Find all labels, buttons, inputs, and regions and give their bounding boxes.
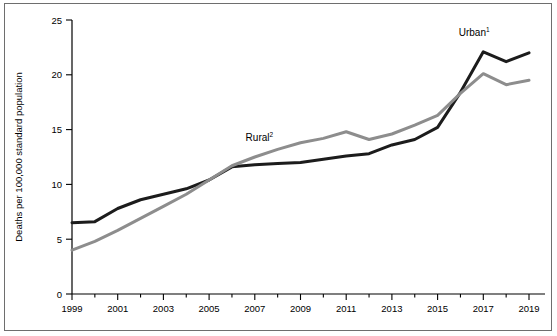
series-label-rural: Rural2 <box>246 131 274 143</box>
y-tick-label-0: 0 <box>57 289 62 300</box>
series-lines-group <box>72 52 529 250</box>
y-tick-label-20: 20 <box>51 69 62 80</box>
y-tick-label-15: 15 <box>51 124 62 135</box>
x-axis-tick-labels: 1999200120032005200720092011201320152017… <box>61 303 539 314</box>
y-axis-title: Deaths per 100,000 standard population <box>13 72 24 242</box>
x-tick-label-2001: 2001 <box>107 303 128 314</box>
series-annotations-group: Urban1Rural2 <box>246 26 490 142</box>
x-tick-label-2015: 2015 <box>427 303 448 314</box>
figure-container: 0510152025 19992001200320052007200920112… <box>0 0 557 336</box>
x-tick-label-1999: 1999 <box>61 303 82 314</box>
y-tick-label-10: 10 <box>51 179 62 190</box>
x-tick-label-2009: 2009 <box>290 303 311 314</box>
x-tick-label-2005: 2005 <box>199 303 220 314</box>
y-axis-ticks <box>66 20 72 294</box>
line-chart: 0510152025 19992001200320052007200920112… <box>0 0 557 336</box>
x-tick-label-2003: 2003 <box>153 303 174 314</box>
x-tick-label-2007: 2007 <box>244 303 265 314</box>
series-label-superscript-rural: 2 <box>270 131 274 138</box>
y-tick-label-5: 5 <box>57 234 62 245</box>
y-axis-tick-labels: 0510152025 <box>51 15 62 300</box>
series-label-urban: Urban1 <box>459 26 490 38</box>
series-line-urban <box>72 52 529 223</box>
y-tick-label-25: 25 <box>51 15 62 26</box>
x-tick-label-2013: 2013 <box>381 303 402 314</box>
x-tick-label-2019: 2019 <box>518 303 539 314</box>
x-tick-label-2011: 2011 <box>336 303 356 314</box>
x-tick-label-2017: 2017 <box>473 303 494 314</box>
series-label-superscript-urban: 1 <box>486 26 490 33</box>
